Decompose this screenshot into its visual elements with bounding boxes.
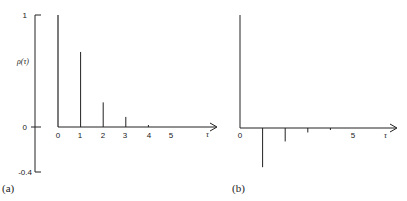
panel-label-a: (a) bbox=[2, 182, 15, 195]
xtick-3: 3 bbox=[123, 131, 128, 140]
chart-b: τ 0 5 (b) bbox=[232, 15, 397, 195]
x-axis-label-b: τ bbox=[384, 131, 388, 140]
xtick-2: 2 bbox=[101, 131, 106, 140]
bars-a bbox=[58, 15, 148, 127]
panel-label-b: (b) bbox=[232, 182, 245, 195]
bars-b bbox=[263, 128, 331, 167]
xtick-5: 5 bbox=[169, 131, 174, 140]
ytick-0: 0 bbox=[23, 123, 28, 132]
xtick-0: 0 bbox=[56, 131, 61, 140]
xtick-4: 4 bbox=[147, 131, 152, 140]
chart-a: 1 0 -0.4 ρ(τ) τ 0 1 2 3 4 5 (a) bbox=[2, 11, 217, 195]
xtick-b-5: 5 bbox=[351, 131, 356, 140]
y-axis-label-a: ρ(τ) bbox=[16, 57, 29, 66]
xtick-b-0: 0 bbox=[238, 131, 243, 140]
ytick-neg04: -0.4 bbox=[18, 168, 32, 177]
x-axis-label-a: τ bbox=[206, 130, 210, 139]
xtick-1: 1 bbox=[78, 131, 83, 140]
ytick-1: 1 bbox=[23, 11, 28, 20]
acf-figure: 1 0 -0.4 ρ(τ) τ 0 1 2 3 4 5 (a) τ 0 5 (b… bbox=[0, 0, 407, 201]
